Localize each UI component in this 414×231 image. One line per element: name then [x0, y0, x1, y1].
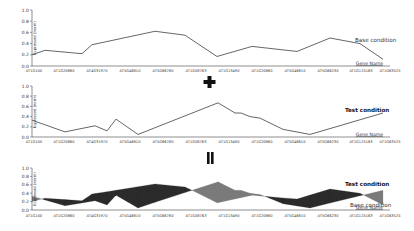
base-condition-label: Base condition: [350, 202, 392, 208]
y-tick-label: 0.8: [22, 94, 29, 99]
test-condition-label: Test condition: [345, 181, 389, 187]
x-tick-label: AT1G08763: [186, 214, 207, 218]
x-tick-label: AT1G100: [26, 69, 43, 73]
difference-area: [260, 194, 265, 196]
x-tick-label: AT5G46810: [120, 140, 142, 144]
x-tick-label: AT4G31970: [87, 214, 109, 218]
difference-area: [252, 193, 260, 196]
operators: [204, 76, 216, 164]
x-tick-label: AT5G66780: [153, 214, 175, 218]
difference-area: [107, 190, 116, 205]
y-axis-label: Expressed (norm): [32, 21, 37, 55]
difference-area: [82, 194, 92, 203]
x-tick-label: AT1G13490: [219, 69, 241, 73]
y-tick-label: 0.6: [22, 182, 29, 187]
x-tick-label: AT1G100: [26, 140, 43, 144]
x-tick-label: AT1G63525: [380, 69, 401, 73]
x-tick-label: AT1G63525: [380, 140, 401, 144]
x-tick-label: AT5G46810: [120, 69, 142, 73]
base-condition-line: [32, 31, 383, 59]
x-tick-label: AT1G100: [26, 214, 43, 218]
y-tick-label: 0.6: [22, 104, 29, 109]
x-tick-label: AT1G13490: [219, 140, 241, 144]
y-tick-label: 0.2: [22, 124, 29, 129]
difference-area: [116, 187, 138, 208]
x-tick-label: AT1G20860: [54, 140, 76, 144]
y-tick-label: 0.2: [22, 52, 29, 57]
x-tick-label: AT1G20860: [252, 69, 274, 73]
y-tick-label: 1.0: [22, 84, 29, 89]
difference-area: [241, 190, 250, 197]
x-tick-label: AT5G66230: [318, 140, 340, 144]
difference-area: [155, 184, 185, 202]
y-axis-label: Expressed (norm): [32, 172, 37, 206]
difference-area: [217, 182, 218, 203]
x-tick-label: AT1G08763: [186, 140, 207, 144]
x-tick-label: AT1G08763: [186, 69, 207, 73]
x-tick-label: AT1G20860: [252, 140, 274, 144]
difference-area: [95, 192, 107, 205]
x-tick-label: AT1G20860: [54, 69, 76, 73]
y-tick-label: 0.0: [22, 135, 29, 140]
y-tick-label: 0.8: [22, 174, 29, 179]
difference-area: [42, 198, 45, 200]
x-tick-label: AT1G125163: [349, 69, 372, 73]
plus-icon: [204, 80, 216, 84]
y-tick-label: 0.4: [22, 191, 29, 196]
x-tick-label: AT1G20860: [252, 214, 274, 218]
x-tick-label: AT5G46810: [285, 69, 307, 73]
difference-area: [310, 189, 330, 208]
difference-area: [218, 182, 235, 203]
x-tick-label: AT1G63525: [380, 214, 401, 218]
y-tick-label: 0.4: [22, 41, 29, 46]
difference-area: [360, 193, 363, 196]
difference-area: [92, 194, 95, 202]
y-tick-label: 0.0: [22, 64, 29, 69]
x-tick-label: AT5G66230: [318, 214, 340, 218]
y-tick-label: 0.6: [22, 30, 29, 35]
difference-area: [235, 190, 241, 199]
x-tick-label: AT4G31970: [87, 140, 109, 144]
x-tick-label: AT1G125163: [349, 214, 372, 218]
x-tick-label: AT5G46810: [120, 214, 142, 218]
difference-area: [297, 195, 310, 208]
x-axis-label: Gene Name: [356, 132, 383, 137]
difference-area: [65, 200, 82, 206]
x-tick-label: AT1G13490: [219, 214, 241, 218]
y-tick-label: 1.0: [22, 166, 29, 171]
x-tick-label: AT4G31970: [87, 69, 109, 73]
equals-icon: [207, 152, 210, 164]
x-tick-label: AT5G66780: [153, 140, 175, 144]
difference-area: [330, 189, 360, 203]
difference-area: [192, 182, 217, 203]
test-condition-panel: 0.00.20.40.60.81.0Expressed (norm)AT1G10…: [22, 84, 401, 145]
x-tick-label: AT5G66780: [153, 69, 175, 73]
x-tick-label: AT1G20860: [54, 214, 76, 218]
y-axis-label: Expressed (norm): [32, 94, 37, 128]
test-condition-label: Test condition: [345, 107, 389, 113]
difference-area: [45, 198, 65, 206]
test-condition-line: [32, 103, 383, 135]
difference-area: [250, 193, 252, 196]
x-tick-label: AT5G46810: [285, 214, 307, 218]
difference-area: [138, 184, 155, 208]
y-tick-label: 0.0: [22, 208, 29, 213]
y-tick-label: 0.2: [22, 199, 29, 204]
y-tick-label: 0.8: [22, 19, 29, 24]
y-tick-label: 0.4: [22, 114, 29, 119]
difference-area: [265, 196, 283, 203]
base-condition-label: Base condition: [355, 37, 397, 43]
chart-figure: 0.00.20.40.60.81.0Expressed (norm)AT1G10…: [0, 0, 414, 231]
y-tick-label: 1.0: [22, 8, 29, 13]
base-condition-panel: 0.00.20.40.60.81.0Expressed (norm)AT1G10…: [22, 8, 401, 74]
x-axis-label: Gene Name: [356, 61, 383, 66]
difference-panel: 0.00.20.40.60.81.0Expressed (norm)AT1G10…: [22, 166, 401, 219]
equals-icon: [211, 152, 214, 164]
difference-area: [185, 187, 192, 193]
difference-area: [283, 198, 297, 206]
x-tick-label: AT5G66230: [318, 69, 340, 73]
x-tick-label: AT1G125163: [349, 140, 372, 144]
x-tick-label: AT5G46810: [285, 140, 307, 144]
